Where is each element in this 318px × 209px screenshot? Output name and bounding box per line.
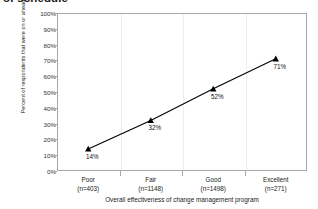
x-axis-category-count: (n=1498) (182, 184, 245, 193)
x-axis-category: Good(n=1498) (182, 173, 245, 195)
y-axis-tick-mark (53, 155, 57, 156)
y-axis-tick-mark (53, 139, 57, 140)
data-series (57, 13, 307, 171)
data-point-marker[interactable] (148, 117, 154, 123)
y-axis-tick-mark (53, 45, 57, 46)
x-axis-category-name: Good (206, 176, 221, 183)
x-axis-category-count: (n=271) (245, 184, 308, 193)
data-point-marker[interactable] (273, 56, 279, 62)
y-axis-tick-label: 40% (22, 104, 56, 111)
y-axis-tick-mark (53, 171, 57, 172)
series-line (88, 59, 276, 149)
data-point-value-label: 71% (273, 63, 286, 70)
y-axis-tick-mark (53, 60, 57, 61)
y-axis-tick-mark (53, 92, 57, 93)
data-point-marker[interactable] (210, 86, 216, 92)
x-axis-tick-mark (182, 171, 183, 176)
x-axis-category: Excellent(n=271) (245, 173, 308, 195)
x-axis-categories: Poor(n=403)Fair(n=1148)Good(n=1498)Excel… (57, 173, 307, 195)
y-axis-tick-label: 90% (22, 25, 56, 32)
y-axis-tick-label: 70% (22, 57, 56, 64)
x-axis-title: Overall effectiveness of change manageme… (57, 196, 307, 203)
y-axis-tick-label: 100% (22, 10, 56, 17)
y-axis-tick-label: 20% (22, 136, 56, 143)
data-point-marker[interactable] (85, 146, 91, 152)
y-axis-tick-label: 60% (22, 73, 56, 80)
y-axis-tick-mark (53, 13, 57, 14)
x-axis-category: Poor(n=403) (57, 173, 120, 195)
y-axis-tick-mark (53, 108, 57, 109)
y-axis-tick-label: 0% (22, 168, 56, 175)
line-chart: Percent of respondents that were on or a… (0, 0, 318, 209)
x-axis-category-count: (n=1148) (120, 184, 183, 193)
x-axis-tick-mark (120, 171, 121, 176)
y-axis-tick-mark (53, 76, 57, 77)
x-axis-category-name: Fair (145, 176, 156, 183)
data-point-value-label: 32% (148, 124, 161, 131)
data-point-value-label: 14% (86, 153, 99, 160)
data-point-value-label: 52% (211, 93, 224, 100)
x-axis-category: Fair(n=1148) (120, 173, 183, 195)
x-axis-category-name: Excellent (263, 176, 289, 183)
y-axis-tick-mark (53, 29, 57, 30)
y-axis-tick-label: 10% (22, 152, 56, 159)
y-axis-tick-label: 30% (22, 120, 56, 127)
y-axis-tick-label: 80% (22, 41, 56, 48)
x-axis-category-count: (n=403) (57, 184, 120, 193)
x-axis-category-name: Poor (82, 176, 95, 183)
y-axis-tick-label: 50% (22, 89, 56, 96)
y-axis-tick-labels: 100%90%80%70%60%50%40%30%20%10%0% (18, 13, 56, 171)
x-axis-tick-mark (245, 171, 246, 176)
y-axis-tick-mark (53, 124, 57, 125)
